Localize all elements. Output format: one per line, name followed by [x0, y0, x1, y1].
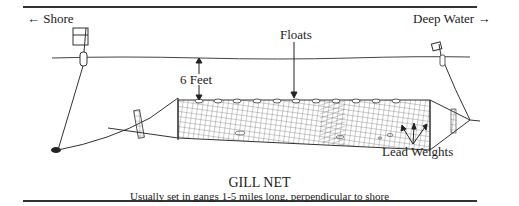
floats-arrow	[291, 42, 297, 98]
deep-water-buoy-flag	[431, 42, 445, 66]
diagram-caption: Usually set in gangs 1-5 miles long, per…	[0, 190, 519, 202]
net-body	[178, 100, 430, 150]
depth-label: 6 Feet	[180, 72, 212, 88]
floats-label: Floats	[280, 27, 312, 43]
water-surface	[52, 57, 470, 59]
diagram-title: GILL NET	[0, 175, 519, 191]
lead-weights-label: Lead Weights	[382, 144, 453, 160]
shore-buoy-flag	[73, 28, 88, 66]
shore-label: ← Shore	[27, 11, 74, 27]
deep-water-label: Deep Water →	[413, 11, 490, 27]
